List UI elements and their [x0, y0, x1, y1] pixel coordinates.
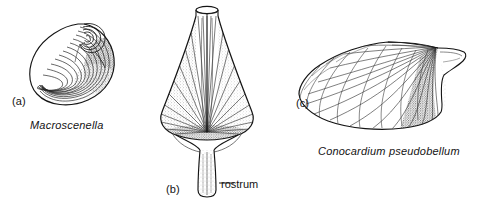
specimen-c-rostral-flange — [438, 48, 466, 112]
taxon-caption-macroscenella: Macroscenella — [30, 119, 104, 131]
specimen-c-shell — [299, 42, 466, 129]
annotation-label-rostrum: rostrum — [221, 178, 258, 190]
specimen-a-shell — [30, 23, 124, 107]
specimen-b-shell — [161, 6, 253, 197]
specimen-a-drawing — [0, 0, 488, 203]
taxon-caption-conocardium: Conocardium pseudobellum — [318, 145, 460, 157]
panel-letter-b: (b) — [166, 183, 180, 195]
panel-letter-a: (a) — [12, 95, 26, 107]
figure-plate: (a) Macroscenella (b) rostrum (c) Conoca… — [0, 0, 488, 203]
panel-letter-c: (c) — [296, 97, 309, 109]
specimen-b-rostrum — [198, 150, 216, 197]
